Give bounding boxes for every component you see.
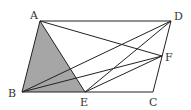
label-a: A (29, 9, 39, 22)
label-e: E (80, 96, 88, 109)
label-f: F (165, 51, 173, 64)
segment-ef (85, 56, 162, 92)
label-b: B (8, 87, 16, 100)
label-c: C (149, 96, 157, 109)
geometry-figure: A D F B E C (0, 0, 191, 110)
label-d: D (174, 10, 183, 23)
